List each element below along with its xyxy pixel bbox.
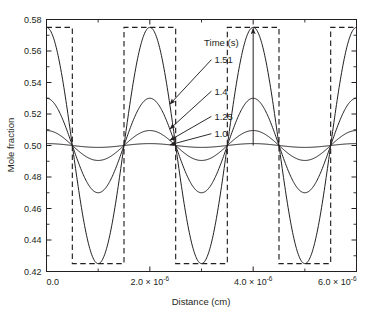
y-tick-label: 0.58	[24, 15, 42, 25]
annotation-labels: Time (s)1.511.41.251.0	[204, 37, 238, 139]
figure-container: 0.420.440.460.480.500.520.540.560.58 0.0…	[0, 0, 392, 318]
plot-frame	[47, 20, 357, 272]
axes-frame	[47, 20, 357, 272]
curve-t-1.25	[47, 131, 357, 161]
y-tick-label: 0.56	[24, 46, 42, 56]
mole-fraction-curves	[47, 27, 357, 263]
x-tick-label: 2.0 × 10-6	[131, 275, 170, 287]
square-wave-curve	[47, 27, 357, 263]
y-tick-label: 0.44	[24, 235, 42, 245]
curve-t-1.0	[47, 144, 357, 148]
y-axis-ticks	[47, 20, 357, 272]
callout-label-1.51: 1.51	[214, 54, 233, 65]
y-axis-tick-labels: 0.420.440.460.480.500.520.540.560.58	[24, 15, 42, 277]
y-tick-label: 0.42	[24, 267, 42, 277]
y-tick-label: 0.48	[24, 172, 42, 182]
x-tick-label: 0.0	[47, 277, 60, 287]
callout-label-1.25: 1.25	[214, 111, 233, 122]
curve-t-1.51	[47, 27, 357, 263]
mole-fraction-vs-distance-chart: 0.420.440.460.480.500.520.540.560.58 0.0…	[0, 0, 392, 318]
callout-label-1.0: 1.0	[214, 128, 227, 139]
y-tick-label: 0.50	[24, 141, 42, 151]
y-tick-label: 0.52	[24, 109, 42, 119]
y-tick-label: 0.46	[24, 204, 42, 214]
y-axis-title: Mole fraction	[5, 118, 16, 172]
x-axis-title: Distance (cm)	[172, 296, 231, 307]
legend-title: Time (s)	[204, 37, 238, 48]
x-axis-tick-labels: 0.02.0 × 10-64.0 × 10-66.0 × 10-6	[47, 275, 357, 287]
x-tick-label: 4.0 × 10-6	[234, 275, 273, 287]
x-tick-label: 6.0 × 10-6	[318, 275, 357, 287]
curve-t-1.4	[47, 98, 357, 193]
data-area	[47, 27, 357, 263]
x-axis-ticks	[47, 20, 357, 272]
y-tick-label: 0.54	[24, 78, 42, 88]
callout-label-1.4: 1.4	[214, 86, 227, 97]
